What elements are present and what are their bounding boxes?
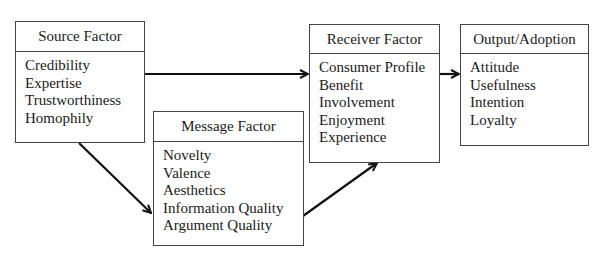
message-factor-list: Novelty Valence Aesthetics Information Q… (154, 142, 303, 235)
list-item: Credibility (25, 57, 144, 75)
source-factor-box: Source Factor Credibility Expertise Trus… (15, 21, 145, 143)
message-factor-title: Message Factor (154, 112, 303, 142)
list-item: Attitude (470, 59, 588, 77)
output-adoption-list: Attitude Usefulness Intention Loyalty (461, 54, 588, 129)
list-item: Homophily (25, 110, 144, 128)
list-item: Consumer Profile (319, 59, 439, 77)
receiver-factor-title: Receiver Factor (310, 25, 439, 54)
list-item: Enjoyment (319, 112, 439, 130)
list-item: Expertise (25, 75, 144, 93)
source-factor-title: Source Factor (16, 22, 144, 52)
list-item: Loyalty (470, 112, 588, 130)
receiver-factor-list: Consumer Profile Benefit Involvement Enj… (310, 54, 439, 147)
list-item: Valence (163, 165, 303, 183)
list-item: Experience (319, 129, 439, 147)
list-item: Involvement (319, 94, 439, 112)
output-adoption-title: Output/Adoption (461, 25, 588, 54)
list-item: Novelty (163, 147, 303, 165)
receiver-factor-box: Receiver Factor Consumer Profile Benefit… (309, 24, 440, 163)
list-item: Benefit (319, 77, 439, 95)
output-adoption-box: Output/Adoption Attitude Usefulness Inte… (460, 24, 589, 146)
arrow-message-to-receiver (303, 163, 377, 216)
source-factor-list: Credibility Expertise Trustworthiness Ho… (16, 52, 144, 127)
message-factor-box: Message Factor Novelty Valence Aesthetic… (153, 111, 304, 246)
list-item: Intention (470, 94, 588, 112)
list-item: Information Quality (163, 200, 303, 218)
arrow-source-to-message (79, 143, 151, 213)
list-item: Argument Quality (163, 217, 303, 235)
list-item: Trustworthiness (25, 92, 144, 110)
list-item: Usefulness (470, 77, 588, 95)
list-item: Aesthetics (163, 182, 303, 200)
